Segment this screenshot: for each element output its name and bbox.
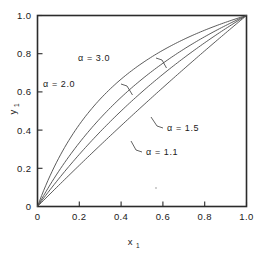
chart-figure: 00.20.40.60.81.0 00.20.40.60.81.0 α = 3.…: [0, 0, 267, 256]
annotation-alpha-1-1: α = 1.1: [146, 147, 178, 157]
annotation-alpha-3: α = 3.0: [78, 53, 110, 63]
y-tick-label: 0.4: [17, 125, 31, 136]
x-tick-label: 0.6: [156, 211, 170, 222]
y-tick-label: 0.8: [17, 48, 31, 59]
svg-text:y: y: [7, 109, 18, 114]
x-tick-label: 0.8: [197, 211, 211, 222]
x-tick-label: 1.0: [239, 211, 253, 222]
annotation-alpha-2: α = 2.0: [43, 79, 75, 89]
x-tick-label: 0.4: [114, 211, 128, 222]
x-axis-tick-labels: 00.20.40.60.81.0: [35, 211, 254, 222]
leader-line-alpha-1-1: [131, 141, 142, 152]
x-tick-label: 0.2: [72, 211, 86, 222]
y-tick-label: 0: [26, 201, 32, 212]
scan-speck: [155, 187, 157, 189]
equilibrium-curves: [38, 16, 247, 207]
xy-equilibrium-plot: 00.20.40.60.81.0 00.20.40.60.81.0 α = 3.…: [0, 0, 267, 256]
x-axis-title: x 1: [128, 236, 140, 249]
svg-text:1: 1: [13, 103, 20, 107]
curve-3: [38, 16, 247, 207]
leader-line-alpha-3: [156, 58, 167, 68]
annotation-alpha-1-5: α = 1.5: [167, 123, 199, 133]
x-tick-label: 0: [35, 211, 41, 222]
y-tick-label: 0.2: [17, 163, 31, 174]
y-axis-tick-labels: 00.20.40.60.81.0: [17, 10, 31, 212]
svg-text:x: x: [128, 236, 133, 247]
svg-text:1: 1: [136, 242, 140, 249]
leader-line-alpha-2: [121, 84, 133, 95]
leader-line-alpha-1-5: [151, 117, 163, 128]
y-tick-label: 1.0: [17, 10, 31, 21]
curve-1-1: [38, 16, 247, 207]
y-axis-title: y 1: [7, 103, 20, 114]
curve-1-5: [38, 16, 247, 207]
y-tick-label: 0.6: [17, 86, 31, 97]
curve-2: [38, 16, 247, 207]
plot-frame: [38, 16, 247, 207]
